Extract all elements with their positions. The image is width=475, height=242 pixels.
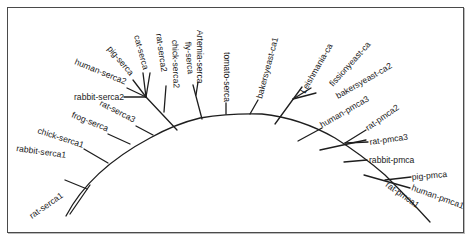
- label-rabbit-serca1: rabbit-serca1: [16, 143, 67, 160]
- branch-rabbit-pmca: [344, 160, 367, 162]
- label-frog-serca: frog-serca: [70, 110, 110, 134]
- branch-frog-serca: [108, 134, 130, 144]
- label-bakersyeast-ca1: bakersyeast-ca1: [254, 36, 280, 100]
- label-rat-pmca3: rat-pmca3: [369, 132, 409, 147]
- branch-bakersyeast-ca1: [250, 100, 258, 114]
- branch-rabbit-serca1: [65, 180, 87, 189]
- label-leishmania-ca: Leishmania-ca: [298, 41, 335, 95]
- label-rabbit-serca2: rabbit-serca2: [74, 92, 124, 102]
- branch-artemia-serca: [196, 82, 198, 95]
- branch-pmca23-stem: [320, 140, 366, 150]
- label-rabbit-pmca: rabbit-pmca: [369, 155, 415, 165]
- label-pig-pmca: pig-pmca: [411, 169, 447, 182]
- label-rat-serca1: rat-serca1: [27, 190, 65, 221]
- branch-human-pmca3: [298, 128, 322, 141]
- branch-serca2-stem: [146, 97, 177, 130]
- branch-fly-serca: [193, 85, 202, 119]
- label-chick-serca2: chick-serca2: [170, 40, 182, 89]
- phylogenetic-tree: rat-serca1 rabbit-serca1 chick-serca1 fr…: [0, 0, 475, 242]
- branch-rat-serca2: [146, 73, 150, 97]
- branch-chick-serca2: [164, 86, 166, 112]
- label-rat-pmca2: rat-pmca2: [363, 102, 401, 133]
- label-artemia-serca: Artemia-serca: [195, 30, 205, 84]
- branch-rat-serca3: [136, 126, 153, 135]
- label-cat-serca: cat-serca: [132, 34, 151, 71]
- label-human-pmca1: human-pmca1: [410, 182, 465, 210]
- label-fly-serca: fly-serca: [183, 41, 196, 74]
- tree-backbone: [66, 114, 430, 222]
- label-rat-serca2: rat-serca2: [154, 33, 169, 73]
- branch-chick-serca1: [84, 149, 108, 163]
- label-tomato-serca: tomato-serca: [222, 52, 232, 102]
- branch-rat-pmca3: [345, 142, 368, 143]
